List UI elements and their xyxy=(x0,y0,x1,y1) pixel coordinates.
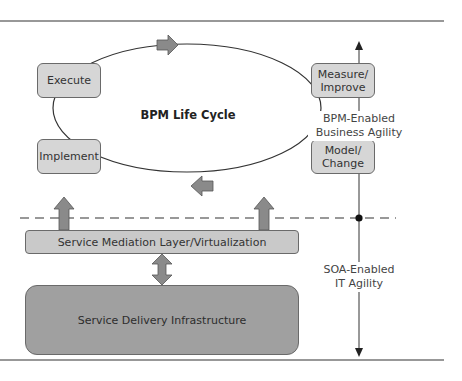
stage-execute[interactable]: Execute xyxy=(37,63,101,98)
stage-implement-label: Implement xyxy=(39,150,99,163)
axis-down-arrowhead-icon xyxy=(355,348,363,357)
service-delivery-label: Service Delivery Infrastructure xyxy=(78,314,247,327)
service-mediation-layer[interactable]: Service Mediation Layer/Virtualization xyxy=(25,230,299,254)
stage-execute-label: Execute xyxy=(47,74,91,87)
stage-model-label: Model/ Change xyxy=(322,144,364,170)
up-arrow-right-icon xyxy=(254,197,274,230)
cycle-arrow-left-icon xyxy=(191,176,213,196)
stage-measure-label: Measure/ Improve xyxy=(318,68,368,94)
bpm-agility-line1: BPM-Enabled xyxy=(308,112,410,126)
soa-agility-line1: SOA-Enabled xyxy=(318,263,400,277)
soa-agility-label: SOA-Enabled IT Agility xyxy=(318,262,400,292)
bpm-agility-label: BPM-Enabled Business Agility xyxy=(308,111,410,141)
stage-measure-improve[interactable]: Measure/ Improve xyxy=(311,63,375,98)
service-delivery-infrastructure[interactable]: Service Delivery Infrastructure xyxy=(25,285,299,355)
lifecycle-title: BPM Life Cycle xyxy=(126,108,250,122)
service-mediation-label: Service Mediation Layer/Virtualization xyxy=(58,236,267,249)
stage-model-change[interactable]: Model/ Change xyxy=(311,139,375,174)
up-arrow-left-icon xyxy=(54,197,74,230)
soa-agility-line2: IT Agility xyxy=(318,277,400,291)
bpm-agility-line2: Business Agility xyxy=(308,126,410,140)
bidirectional-arrow-icon xyxy=(152,254,172,285)
axis-up-arrowhead-icon xyxy=(355,41,363,50)
stage-implement[interactable]: Implement xyxy=(37,139,101,174)
cycle-arrow-right-icon xyxy=(157,35,178,55)
axis-boundary-dot xyxy=(355,214,362,221)
